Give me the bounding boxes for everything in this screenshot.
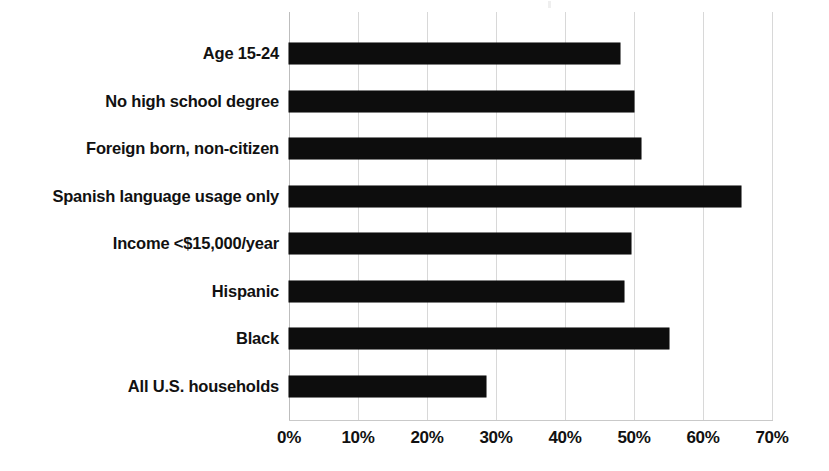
bar-row xyxy=(289,233,772,254)
bar-row xyxy=(289,281,772,302)
x-tick-label: 40% xyxy=(525,428,605,448)
category-axis-labels: Age 15-24No high school degreeForeign bo… xyxy=(0,0,279,471)
x-axis-tick-labels: 0%10%20%30%40%50%60%70% xyxy=(0,428,829,458)
category-label: Age 15-24 xyxy=(0,44,279,63)
bar[interactable] xyxy=(289,233,631,254)
category-label: No high school degree xyxy=(0,92,279,111)
bar-row xyxy=(289,43,772,64)
bar[interactable] xyxy=(289,91,634,112)
category-label: Income <$15,000/year xyxy=(0,234,279,253)
x-tick-label: 10% xyxy=(318,428,398,448)
x-tick-label: 60% xyxy=(663,428,743,448)
category-label: Hispanic xyxy=(0,282,279,301)
bar-chart: Age 15-24No high school degreeForeign bo… xyxy=(0,0,829,471)
bar-row xyxy=(289,328,772,349)
bar-row xyxy=(289,91,772,112)
bar-row xyxy=(289,138,772,159)
bar[interactable] xyxy=(289,281,624,302)
bar-row xyxy=(289,186,772,207)
x-tick-label: 30% xyxy=(456,428,536,448)
category-label: Black xyxy=(0,329,279,348)
x-tick-label: 50% xyxy=(594,428,674,448)
bar[interactable] xyxy=(289,328,669,349)
bar-row xyxy=(289,376,772,397)
bar[interactable] xyxy=(289,138,641,159)
x-tick-label: 20% xyxy=(387,428,467,448)
bar[interactable] xyxy=(289,186,741,207)
category-label: All U.S. households xyxy=(0,377,279,396)
bar[interactable] xyxy=(289,376,486,397)
x-tick-label: 70% xyxy=(732,428,812,448)
category-label: Foreign born, non-citizen xyxy=(0,139,279,158)
bar[interactable] xyxy=(289,43,620,64)
x-tick-label: 0% xyxy=(249,428,329,448)
category-label: Spanish language usage only xyxy=(0,187,279,206)
